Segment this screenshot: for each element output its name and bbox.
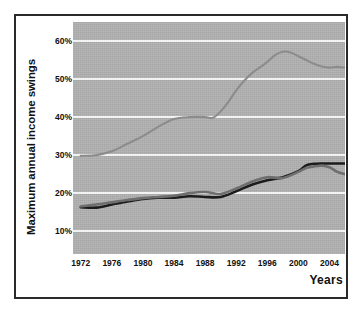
x-tick-label: 2004: [320, 258, 339, 268]
chart-figure: Maximum annual income swings 60%50%40%30…: [0, 0, 363, 315]
x-tick-label: 1996: [258, 258, 277, 268]
y-axis-tick-labels: 60%50%40%30%20%10%: [44, 22, 72, 254]
x-tick-label: 1980: [133, 258, 152, 268]
x-tick-label: 1984: [165, 258, 184, 268]
x-axis-tick-labels: 197219761980198419881992199620002004: [73, 258, 345, 272]
series-lines: [73, 22, 345, 254]
x-tick-label: 2000: [289, 258, 308, 268]
plot-area: [73, 22, 345, 254]
y-tick-label: 60%: [55, 36, 72, 46]
series-line-upper-series: [81, 51, 345, 155]
y-tick-label: 30%: [55, 150, 72, 160]
y-tick-label: 10%: [55, 226, 72, 236]
x-tick-label: 1992: [227, 258, 246, 268]
x-tick-label: 1988: [196, 258, 215, 268]
y-axis-title-container: Maximum annual income swings: [18, 22, 44, 272]
x-tick-label: 1976: [102, 258, 121, 268]
x-tick-label: 1972: [71, 258, 90, 268]
series-line-lower-series-gray: [81, 166, 345, 207]
y-tick-label: 50%: [55, 74, 72, 84]
x-axis-title: Years: [309, 273, 343, 287]
y-tick-label: 20%: [55, 188, 72, 198]
y-tick-label: 40%: [55, 112, 72, 122]
y-axis-title: Maximum annual income swings: [25, 59, 37, 235]
